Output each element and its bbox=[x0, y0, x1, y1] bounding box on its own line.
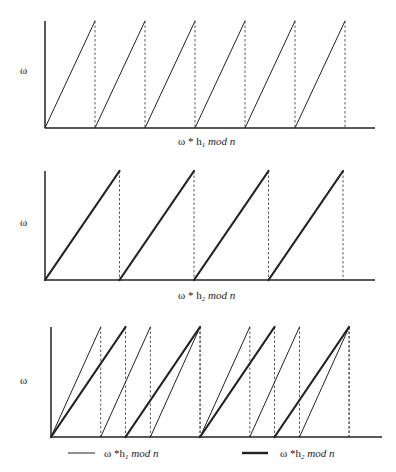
sawtooth-segment-h1 bbox=[45, 21, 95, 128]
sawtooth-segment-h2 bbox=[126, 327, 201, 437]
sawtooth-segment-h2 bbox=[269, 171, 344, 280]
panel-h1: ω ω * h1 mod n bbox=[20, 21, 375, 149]
sawtooth-segment-h1 bbox=[295, 21, 345, 128]
sawtooth-segment-h1 bbox=[200, 327, 250, 437]
figure: ω ω * h1 mod n ω ω * h2 mod n ω ω *h1 mo… bbox=[0, 0, 396, 472]
sawtooth-segment-h1 bbox=[101, 327, 151, 437]
sawtooth-segment-h1 bbox=[195, 21, 245, 128]
y-axis-label: ω bbox=[20, 64, 27, 76]
y-axis-label: ω bbox=[20, 216, 27, 228]
sawtooth-segment-h2 bbox=[45, 171, 120, 280]
sawtooth-segment-h2 bbox=[200, 327, 275, 437]
sawtooth-segment-h1 bbox=[150, 327, 200, 437]
legend-label-h2: ω *h2 mod n bbox=[280, 447, 335, 461]
sawtooth-segment-h1 bbox=[145, 21, 195, 128]
sawtooth-segment-h2 bbox=[275, 327, 350, 437]
x-axis-label: ω * h1 mod n bbox=[178, 135, 236, 149]
legend-label-h1: ω *h1 mod n bbox=[104, 447, 159, 461]
legend: ω *h1 mod n ω *h2 mod n bbox=[68, 447, 335, 461]
sawtooth-segment-h1 bbox=[245, 21, 295, 128]
panel-h2: ω ω * h2 mod n bbox=[20, 171, 375, 303]
sawtooth-segment-h1 bbox=[95, 21, 145, 128]
sawtooth-segment-h1 bbox=[51, 327, 101, 437]
sawtooth-segment-h1 bbox=[300, 327, 350, 437]
panel-combined: ω bbox=[20, 327, 382, 437]
y-axis-label: ω bbox=[20, 374, 27, 386]
sawtooth-segment-h2 bbox=[51, 327, 126, 437]
x-axis-label: ω * h2 mod n bbox=[178, 289, 236, 303]
sawtooth-segment-h2 bbox=[120, 171, 195, 280]
sawtooth-segment-h2 bbox=[194, 171, 269, 280]
sawtooth-segment-h1 bbox=[250, 327, 300, 437]
